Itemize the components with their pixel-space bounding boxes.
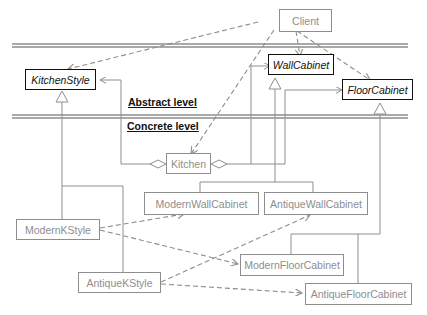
generalization-arrowhead-kitchenstyle (56, 91, 68, 102)
uml-diagram (0, 0, 427, 315)
generalization-arrowhead-wallcabinet (269, 78, 281, 89)
dependency-modernkstyle-modernwallcabinet (100, 214, 184, 228)
aggregation-diamond-left (150, 160, 166, 168)
class-floorcabinet: FloorCabinet (342, 79, 413, 100)
class-antiquewallcabinet: AntiqueWallCabinet (264, 192, 368, 215)
generalization-floor-branch (291, 234, 380, 255)
class-modernwallcabinet: ModernWallCabinet (144, 192, 259, 215)
dependency-antiquekstyle-antiquefloorcabinet (161, 284, 302, 293)
generalization-arrowhead-floorcabinet (374, 103, 386, 114)
class-kitchenstyle: KitchenStyle (25, 69, 96, 90)
dependency-client-kitchenstyle (68, 22, 258, 69)
class-antiquekstyle: AntiqueKStyle (78, 272, 161, 293)
dependency-modernkstyle-modernfloorcabinet (100, 230, 238, 264)
class-antiquefloorcabinet: AntiqueFloorCabinet (305, 283, 412, 305)
class-wallcabinet: WallCabinet (268, 54, 334, 75)
dependency-client-kitchen (191, 30, 274, 154)
divider-middle (12, 115, 408, 118)
class-client: Client (279, 9, 332, 32)
concrete-level-label: Concrete level (127, 120, 199, 132)
divider-top (12, 44, 408, 47)
class-modernkstyle: ModernKStyle (16, 219, 100, 240)
aggregation-kitchen-floorcabinet (251, 90, 342, 164)
abstract-level-label: Abstract level (128, 96, 197, 108)
class-modernfloorcabinet: ModernFloorCabinet (240, 254, 344, 276)
class-kitchen: Kitchen (166, 153, 211, 174)
aggregation-diamond-right (211, 160, 227, 168)
